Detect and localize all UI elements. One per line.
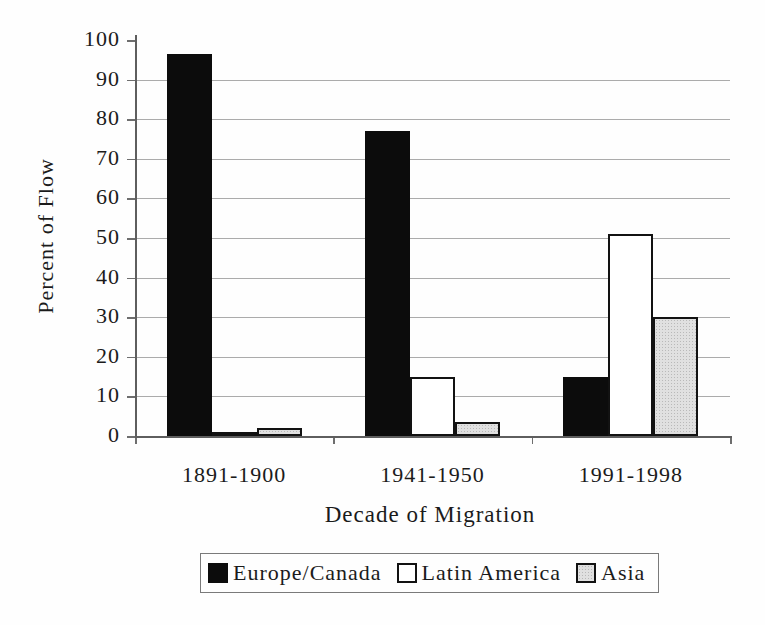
y-tick-label-100: 100 [0,26,120,52]
y-tick-label-30: 30 [0,303,120,329]
y-tick-label-40: 40 [0,264,120,290]
x-category-label-1991-1998: 1991-1998 [579,462,683,488]
y-tick-label-0: 0 [0,422,120,448]
y-tick-label-60: 60 [0,185,120,211]
y-gridline-70 [135,159,730,160]
bar-europe-canada-1941-1950 [365,131,410,436]
legend-swatch-asia [576,563,596,583]
bar-latin-america-1991-1998 [608,234,653,436]
bar-latin-america-1941-1950 [410,377,455,436]
legend-label-asia: Asia [601,560,645,586]
y-tick-mark-90 [127,80,135,82]
bar-europe-canada-1991-1998 [563,377,608,436]
legend-swatch-latin-america [397,563,417,583]
legend-item-europe-canada: Europe/Canada [208,560,382,586]
y-tick-mark-80 [127,119,135,121]
y-gridline-90 [135,80,730,81]
y-tick-mark-10 [127,396,135,398]
x-axis-title: Decade of Migration [325,502,536,528]
y-tick-mark-0 [127,436,135,438]
y-tick-mark-50 [127,238,135,240]
y-tick-mark-20 [127,357,135,359]
legend-label-europe-canada: Europe/Canada [233,560,382,586]
y-tick-mark-100 [127,40,135,42]
legend-label-latin-america: Latin America [422,560,561,586]
y-gridline-80 [135,119,730,120]
y-tick-mark-60 [127,198,135,200]
y-tick-label-10: 10 [0,383,120,409]
y-tick-label-20: 20 [0,343,120,369]
migration-bar-chart: Percent of Flow 010203040506070809010018… [0,0,765,625]
y-tick-label-70: 70 [0,145,120,171]
y-tick-label-90: 90 [0,66,120,92]
x-axis-line [135,436,732,438]
legend: Europe/CanadaLatin AmericaAsia [200,553,659,593]
y-tick-mark-30 [127,317,135,319]
legend-item-asia: Asia [576,560,645,586]
y-tick-label-80: 80 [0,105,120,131]
y-tick-mark-70 [127,159,135,161]
y-tick-mark-40 [127,278,135,280]
y-tick-label-50: 50 [0,224,120,250]
legend-item-latin-america: Latin America [397,560,561,586]
bar-asia-1891-1900 [257,428,302,436]
legend-swatch-europe-canada [208,563,228,583]
y-axis-line [135,35,137,438]
x-category-label-1891-1900: 1891-1900 [182,462,286,488]
x-category-label-1941-1950: 1941-1950 [380,462,484,488]
bar-asia-1991-1998 [653,317,698,436]
y-gridline-60 [135,198,730,199]
bar-europe-canada-1891-1900 [167,54,212,436]
bar-asia-1941-1950 [455,422,500,436]
